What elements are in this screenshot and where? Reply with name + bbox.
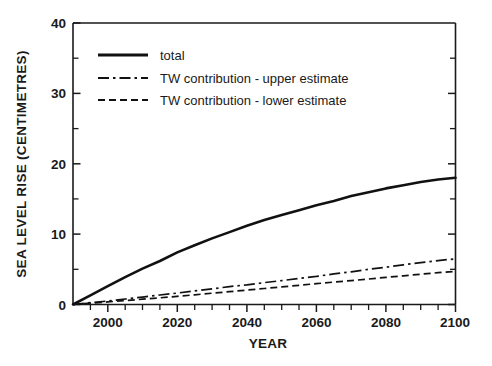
y-tick-label-30: 30 bbox=[51, 86, 66, 101]
sea-level-rise-line-chart: 0 10 20 30 40 2000 2020 2040 2060 2080 2… bbox=[0, 0, 492, 366]
x-tick-label-2100: 2100 bbox=[440, 315, 470, 330]
x-tick-label-2000: 2000 bbox=[93, 315, 123, 330]
legend-label-total: total bbox=[160, 48, 185, 63]
chart-figure: 0 10 20 30 40 2000 2020 2040 2060 2080 2… bbox=[0, 0, 492, 366]
x-tick-label-2080: 2080 bbox=[371, 315, 401, 330]
x-tick-label-2060: 2060 bbox=[301, 315, 331, 330]
y-tick-label-20: 20 bbox=[51, 157, 66, 172]
x-tick-label-2020: 2020 bbox=[162, 315, 192, 330]
legend-label-lower-estimate: TW contribution - lower estimate bbox=[160, 93, 346, 108]
x-axis-title: YEAR bbox=[249, 336, 288, 351]
y-axis-title: SEA LEVEL RISE (CENTIMETRES) bbox=[14, 50, 29, 277]
y-tick-label-40: 40 bbox=[51, 16, 66, 31]
x-tick-label-2040: 2040 bbox=[232, 315, 262, 330]
y-tick-label-10: 10 bbox=[51, 227, 66, 242]
y-tick-label-0: 0 bbox=[58, 298, 66, 313]
legend-label-upper-estimate: TW contribution - upper estimate bbox=[160, 71, 349, 86]
